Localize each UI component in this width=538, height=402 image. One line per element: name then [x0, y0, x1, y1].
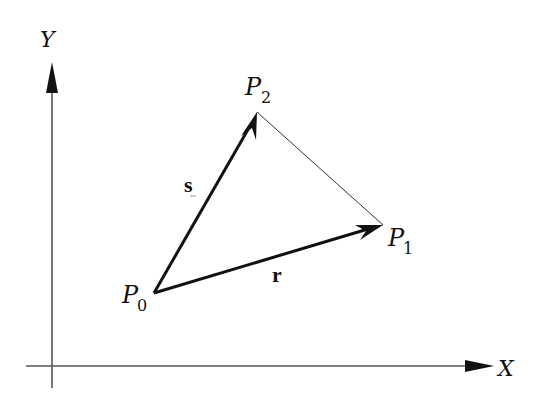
svg-text:P: P: [244, 73, 262, 101]
vector-r-label: r: [272, 262, 282, 287]
y-axis-arrowhead-icon: [46, 62, 58, 93]
y-axis-label: Y: [40, 27, 57, 52]
x-axis-label: X: [496, 356, 515, 381]
y-axis: [46, 62, 58, 388]
x-axis: [26, 360, 494, 372]
vector-s-label: s: [184, 172, 193, 197]
label-p2: P 2: [244, 73, 271, 107]
label-p1: P 1: [387, 224, 413, 258]
label-p0: P 0: [121, 281, 147, 315]
x-axis-arrowhead-icon: [465, 360, 494, 372]
svg-text:0: 0: [137, 296, 147, 315]
svg-text:2: 2: [261, 88, 271, 107]
vector-triangle-diagram: Y X P 0 P 1 P 2 s r: [0, 0, 538, 402]
svg-text:1: 1: [403, 239, 413, 258]
edge-p1-p2: [257, 112, 383, 225]
